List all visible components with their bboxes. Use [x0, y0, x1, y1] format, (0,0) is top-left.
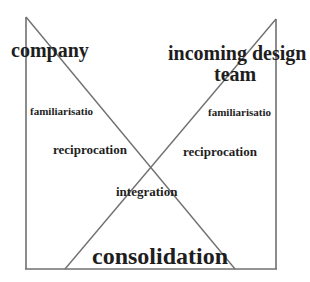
consolidation-label: consolidation [92, 244, 228, 268]
integration-label: integration [116, 185, 177, 198]
left-familiarisation-label: familiarisatio [30, 106, 93, 117]
incoming-design-team-label-line2: team [214, 64, 256, 84]
right-familiarisation-label: familiarisatio [208, 107, 271, 118]
convergence-diagram: company incoming design team familiarisa… [0, 0, 310, 282]
incoming-design-team-label-line1: incoming design [168, 43, 306, 63]
company-label: company [11, 40, 89, 60]
right-reciprocation-label: reciprocation [183, 145, 257, 158]
left-reciprocation-label: reciprocation [53, 143, 127, 156]
